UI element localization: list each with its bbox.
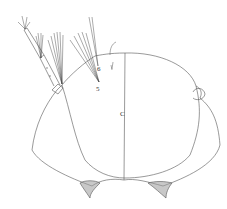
label-suture-c: C	[120, 110, 125, 118]
eye-bump	[193, 88, 205, 99]
right-mandible-shade	[148, 182, 172, 199]
small-seta	[111, 62, 113, 70]
head-capsule-figure: 6 5 C	[0, 0, 227, 209]
label-seta-6: 6	[97, 65, 101, 73]
seta-6	[89, 17, 98, 66]
label-seta-5: 5	[96, 85, 100, 93]
frontal-sclerite-outline	[62, 85, 199, 178]
antenna	[24, 28, 63, 94]
left-mandible-shade	[80, 181, 100, 198]
antenna-mid-setae	[36, 33, 43, 58]
antenna-tip-setae	[18, 16, 30, 29]
